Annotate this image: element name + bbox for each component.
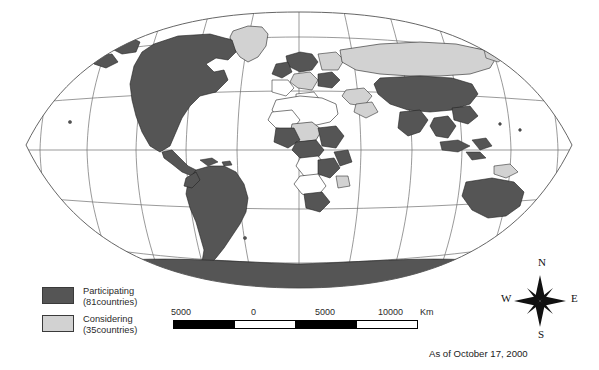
legend-label-considering: Considering (35countries) xyxy=(83,314,137,335)
thematic-world-map: Participating (81countries) Considering … xyxy=(0,0,599,370)
legend-label-participating: Participating (81countries) xyxy=(83,286,137,307)
legend-label-considering-count: (35countries) xyxy=(83,325,137,336)
map-scale-bar: 5000 0 5000 10000 Km xyxy=(173,307,418,329)
scale-tick-1: 0 xyxy=(251,307,256,317)
scale-segment-3 xyxy=(357,321,417,328)
legend-swatch-participating xyxy=(42,287,74,304)
legend-item-participating: Participating (81countries) xyxy=(42,286,137,307)
legend-label-participating-title: Participating xyxy=(83,286,134,296)
compass-label-north: N xyxy=(538,256,546,268)
scale-segment-1 xyxy=(235,321,296,328)
legend-swatch-considering xyxy=(42,315,74,332)
scale-segment-2 xyxy=(296,321,357,328)
scale-segment-0 xyxy=(174,321,235,328)
scale-tick-labels: 5000 0 5000 10000 Km xyxy=(173,307,418,319)
compass-label-east: E xyxy=(571,292,578,304)
scale-tick-3: 10000 xyxy=(378,307,403,317)
map-body xyxy=(0,0,599,300)
scale-unit-label: Km xyxy=(420,307,434,317)
compass-rose: N S E W xyxy=(497,258,583,344)
legend-item-considering: Considering (35countries) xyxy=(42,314,137,335)
region-alaska xyxy=(84,50,102,60)
legend-label-considering-title: Considering xyxy=(83,314,133,324)
map-date-caption: As of October 17, 2000 xyxy=(429,348,528,359)
scale-tick-0: 5000 xyxy=(171,307,191,317)
legend-label-participating-count: (81countries) xyxy=(83,297,137,308)
scale-track xyxy=(173,320,418,329)
map-legend: Participating (81countries) Considering … xyxy=(42,286,137,342)
compass-label-south: S xyxy=(538,328,544,340)
compass-label-west: W xyxy=(501,292,511,304)
scale-tick-2: 5000 xyxy=(315,307,335,317)
